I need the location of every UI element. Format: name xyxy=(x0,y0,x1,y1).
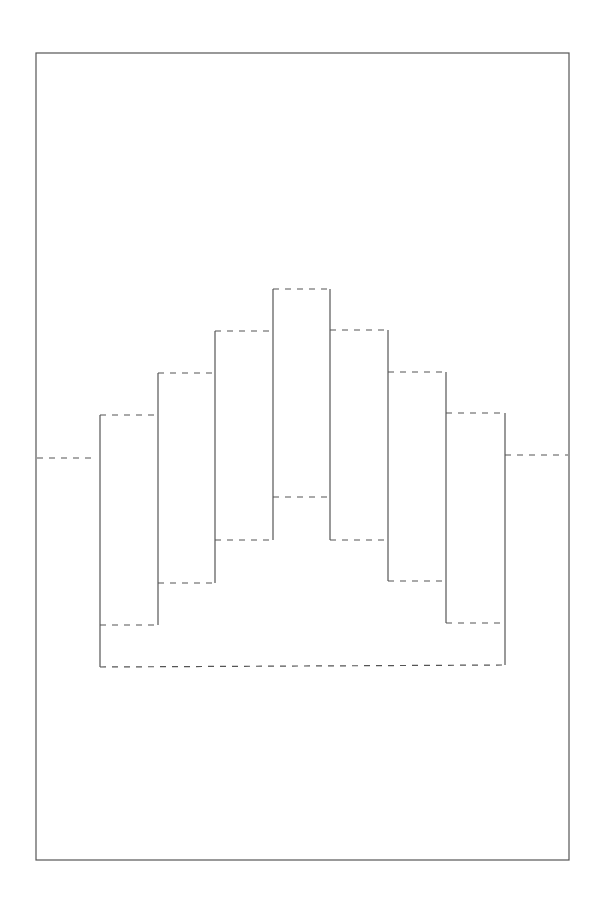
popup-card-template-diagram xyxy=(0,0,596,905)
fold-lines xyxy=(37,289,568,667)
cut-lines xyxy=(100,289,505,667)
fold-line xyxy=(100,665,505,667)
card-border xyxy=(36,53,569,860)
